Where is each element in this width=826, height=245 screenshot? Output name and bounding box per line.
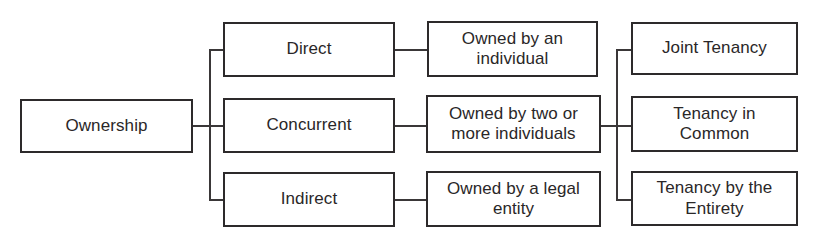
node-tenancy-by-the-entirety-label: Tenancy by the Entirety bbox=[636, 178, 793, 218]
ownership-hierarchy-diagram: Ownership Direct Concurrent Indirect Own… bbox=[0, 0, 826, 245]
line-2: individual bbox=[477, 49, 549, 68]
connector-indirect-to-owned-legal-entity bbox=[394, 199, 427, 201]
connector-trunk-to-direct bbox=[209, 49, 224, 51]
node-owned-by-two-or-more-individuals-label: Owned by two or more individuals bbox=[431, 104, 596, 144]
node-owned-by-an-individual[interactable]: Owned by an individual bbox=[427, 21, 598, 77]
connector-trunk-to-tenancy-in-common bbox=[616, 125, 632, 127]
node-owned-by-an-individual-label: Owned by an individual bbox=[432, 29, 593, 69]
connector-owned-two-or-more-to-trunk bbox=[600, 125, 617, 127]
line-2: more individuals bbox=[451, 124, 575, 143]
node-concurrent[interactable]: Concurrent bbox=[223, 98, 395, 153]
node-tenancy-by-the-entirety[interactable]: Tenancy by the Entirety bbox=[631, 171, 798, 226]
connector-trunk-to-indirect bbox=[209, 199, 224, 201]
line-2: entity bbox=[493, 199, 534, 218]
node-tenancy-in-common[interactable]: Tenancy in Common bbox=[631, 96, 798, 152]
node-tenancy-in-common-label: Tenancy in Common bbox=[636, 104, 793, 144]
line-2: Common bbox=[680, 124, 750, 143]
node-concurrent-label: Concurrent bbox=[228, 115, 390, 135]
node-direct[interactable]: Direct bbox=[223, 22, 395, 77]
node-ownership[interactable]: Ownership bbox=[20, 99, 193, 153]
node-owned-by-a-legal-entity-label: Owned by a legal entity bbox=[431, 179, 596, 219]
line-1: Owned by a legal bbox=[447, 179, 580, 198]
node-owned-by-two-or-more-individuals[interactable]: Owned by two or more individuals bbox=[426, 95, 601, 153]
node-joint-tenancy[interactable]: Joint Tenancy bbox=[631, 22, 798, 75]
connector-ownership-to-trunk bbox=[193, 125, 210, 127]
connector-trunk-to-tenancy-by-entirety bbox=[616, 199, 632, 201]
node-joint-tenancy-label: Joint Tenancy bbox=[636, 38, 793, 58]
connector-trunk-to-concurrent bbox=[209, 125, 224, 127]
line-1: Tenancy by the bbox=[657, 178, 773, 197]
node-indirect[interactable]: Indirect bbox=[223, 172, 395, 227]
connector-trunk-to-joint-tenancy bbox=[616, 49, 632, 51]
line-1: Tenancy in bbox=[673, 104, 755, 123]
connector-concurrent-to-owned-two-or-more bbox=[394, 125, 427, 127]
line-1: Owned by two or bbox=[449, 104, 578, 123]
line-1: Owned by an bbox=[462, 29, 563, 48]
node-direct-label: Direct bbox=[228, 39, 390, 59]
connector-direct-to-owned-individual bbox=[394, 49, 428, 51]
node-owned-by-a-legal-entity[interactable]: Owned by a legal entity bbox=[426, 171, 601, 227]
node-ownership-label: Ownership bbox=[25, 116, 188, 136]
line-2: Entirety bbox=[685, 199, 743, 218]
node-indirect-label: Indirect bbox=[228, 189, 390, 209]
